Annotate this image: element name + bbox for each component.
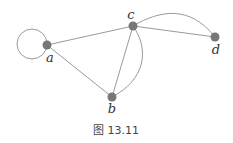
node-a: [43, 41, 52, 50]
edge-c-d-curved: [133, 13, 215, 37]
graph-figure: a b c d 图 13.11: [0, 0, 233, 143]
edge-c-b-straight: [112, 26, 133, 97]
edge-c-d-straight: [133, 26, 215, 37]
node-label-b: b: [108, 102, 116, 115]
node-d: [211, 33, 220, 42]
figure-caption: 图 13.11: [93, 121, 139, 137]
node-label-a: a: [46, 51, 54, 64]
edge-a-c: [47, 26, 133, 45]
edge-c-b-curved: [112, 26, 143, 97]
node-label-d: d: [212, 43, 220, 56]
node-label-c: c: [127, 8, 134, 21]
edge-a-b: [47, 45, 112, 97]
node-c: [129, 22, 138, 31]
edge-loop-a: [17, 29, 47, 59]
